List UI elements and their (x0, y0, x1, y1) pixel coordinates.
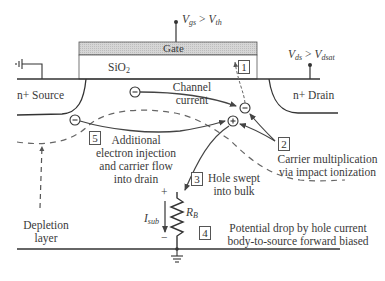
isub-plus: + (161, 186, 168, 199)
rb-label: RB (186, 206, 198, 222)
step-1-badge: 1 (238, 60, 250, 74)
step-5-description: Additional electron injection and carrie… (91, 134, 181, 186)
depletion-layer-label: Depletion layer (18, 219, 74, 245)
step-4-badge: 4 (199, 226, 211, 240)
isub-label: Isub (144, 212, 159, 228)
step-2-description: Carrier multiplication via impact ioniza… (270, 153, 385, 179)
drain-terminal (308, 63, 312, 79)
step-3-description: Hole swept into bulk (204, 172, 264, 198)
drain-bias-label: Vds > Vdsat (288, 48, 335, 64)
oxide (79, 55, 257, 79)
source-label: n+ Source (17, 89, 64, 102)
step5-electron-flow-arrow (80, 121, 225, 132)
step-3-badge: 3 (191, 172, 203, 186)
source-ground-icon (16, 59, 42, 79)
channel-current-label: Channel current (162, 81, 222, 107)
step-4-description: Potential drop by hole current body-to-s… (213, 222, 383, 248)
resistor-rb-icon (171, 192, 183, 248)
gate-label: Gate (163, 42, 184, 55)
isub-minus: − (161, 231, 168, 244)
depletion-pointer (40, 146, 42, 208)
mosfet-diagram: Vgs > Vth Gate SiO2 1 Vds > Vdsat n+ Sou… (0, 0, 385, 281)
drain-label: n+ Drain (293, 89, 334, 102)
step2-arrow-hole (240, 124, 275, 141)
gate-bias-label: Vgs > Vth (182, 13, 222, 29)
oxide-label: SiO2 (108, 61, 130, 77)
step2-arrow-electron (250, 114, 275, 141)
step-2-badge: 2 (278, 137, 290, 151)
gate-terminal (174, 20, 178, 42)
bulk-ground-icon (171, 249, 183, 262)
